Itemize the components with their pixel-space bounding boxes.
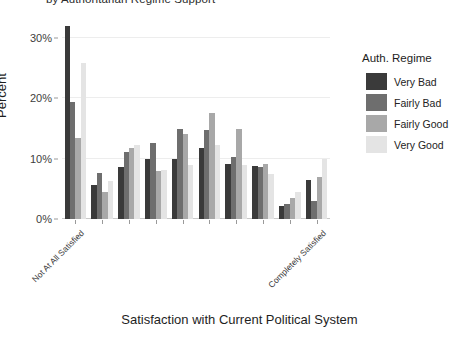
bar-group[interactable] <box>276 20 303 219</box>
chart-title: by Authoritarian Regime Support <box>46 0 346 5</box>
legend-swatch <box>366 94 387 111</box>
x-tick-mark <box>156 220 157 224</box>
x-tick-mark <box>129 220 130 224</box>
y-tick-mark <box>54 98 58 99</box>
bar[interactable] <box>81 63 86 219</box>
x-axis-title: Satisfaction with Current Political Syst… <box>0 312 469 327</box>
legend-swatch <box>366 136 387 153</box>
legend: Auth. Regime Very BadFairly BadFairly Go… <box>366 52 466 155</box>
y-tick-label: 10% <box>30 153 52 165</box>
x-tick-mark <box>263 220 264 224</box>
bar-group[interactable] <box>169 20 196 219</box>
bar-group[interactable] <box>142 20 169 219</box>
bar-group[interactable] <box>196 20 223 219</box>
x-tick-mark <box>317 220 318 224</box>
bar[interactable] <box>268 174 273 219</box>
y-tick-mark <box>54 38 58 39</box>
y-tick-label: 30% <box>30 32 52 44</box>
bar-group[interactable] <box>223 20 250 219</box>
legend-label: Fairly Good <box>394 118 448 130</box>
legend-label: Very Good <box>394 139 444 151</box>
bar[interactable] <box>322 159 327 219</box>
y-tick-mark <box>54 219 58 220</box>
bar[interactable] <box>161 170 166 219</box>
legend-item[interactable]: Fairly Bad <box>366 92 466 113</box>
bar-group[interactable] <box>116 20 143 219</box>
legend-item[interactable]: Fairly Good <box>366 113 466 134</box>
plot-area <box>62 20 330 219</box>
bar-group[interactable] <box>89 20 116 219</box>
y-axis: 0%10%20%30% <box>0 20 60 219</box>
y-tick-label: 0% <box>36 213 52 225</box>
bar[interactable] <box>134 145 139 219</box>
bar[interactable] <box>188 165 193 219</box>
bar-group[interactable] <box>303 20 330 219</box>
x-tick-mark <box>75 220 76 224</box>
chart-root: by Authoritarian Regime Support 0%10%20%… <box>0 0 469 337</box>
bar-group[interactable] <box>250 20 277 219</box>
legend-label: Very Bad <box>394 76 437 88</box>
y-tick-label: 20% <box>30 92 52 104</box>
x-tick-label: Completely Satisfied <box>266 228 328 290</box>
x-tick-mark <box>236 220 237 224</box>
legend-label: Fairly Bad <box>394 97 441 109</box>
bar[interactable] <box>108 181 113 219</box>
bar-group[interactable] <box>62 20 89 219</box>
legend-item[interactable]: Very Bad <box>366 71 466 92</box>
legend-items: Very BadFairly BadFairly GoodVery Good <box>366 71 466 155</box>
x-tick-mark <box>209 220 210 224</box>
y-axis-title: Percent <box>0 73 9 118</box>
x-tick-mark <box>183 220 184 224</box>
legend-swatch <box>366 115 387 132</box>
bar[interactable] <box>215 145 220 219</box>
y-tick-mark <box>54 158 58 159</box>
x-tick-mark <box>290 220 291 224</box>
x-tick-mark <box>102 220 103 224</box>
legend-item[interactable]: Very Good <box>366 134 466 155</box>
legend-title: Auth. Regime <box>362 52 466 64</box>
bar[interactable] <box>295 192 300 219</box>
bar[interactable] <box>242 165 247 219</box>
x-tick-label: Not At All Satisfied <box>30 228 86 284</box>
legend-swatch <box>366 73 387 90</box>
